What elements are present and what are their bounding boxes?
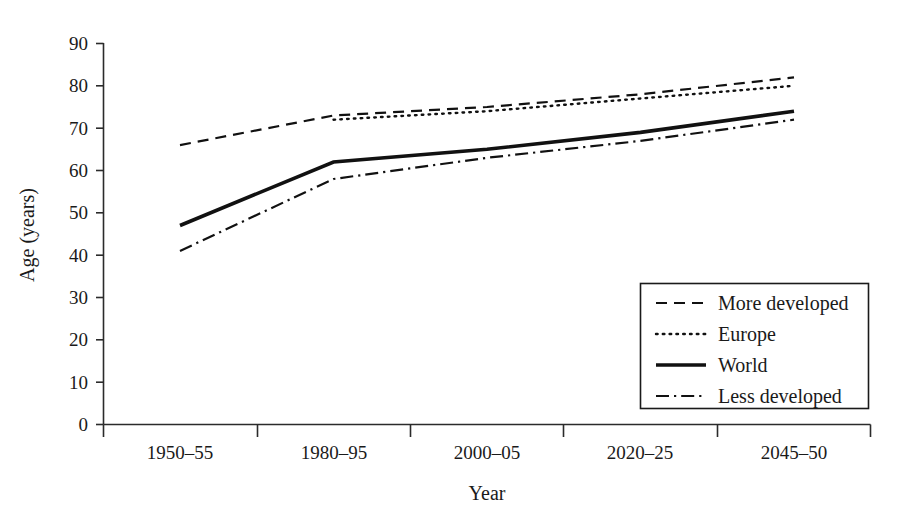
x-tick-label-2000-05: 2000–05 — [454, 442, 521, 463]
x-tick-label-2045-50: 2045–50 — [761, 442, 828, 463]
y-tick-label-90: 90 — [69, 33, 88, 54]
x-axis-ticks — [104, 425, 871, 438]
legend-label-less-developed: Less developed — [718, 385, 842, 408]
y-axis-ticks — [96, 44, 104, 425]
series-line-less-developed — [180, 120, 794, 251]
series-line-more-developed — [180, 77, 794, 145]
y-axis-title: Age (years) — [16, 188, 39, 282]
x-tick-label-1950-55: 1950–55 — [147, 442, 214, 463]
x-axis-tick-labels: 1950–55 1980–95 2000–05 2020–25 2045–50 — [147, 442, 828, 463]
y-tick-label-0: 0 — [79, 414, 89, 435]
series-group — [180, 77, 794, 251]
y-tick-label-50: 50 — [69, 202, 88, 223]
legend-label-europe: Europe — [718, 323, 776, 346]
y-tick-label-60: 60 — [69, 160, 88, 181]
y-tick-label-80: 80 — [69, 75, 88, 96]
y-tick-label-40: 40 — [69, 245, 88, 266]
x-tick-label-2020-25: 2020–25 — [607, 442, 674, 463]
chart-canvas: 0 10 20 30 40 50 60 70 80 90 1950–55 198… — [0, 0, 898, 525]
legend: More developed Europe World Less develop… — [641, 284, 869, 409]
y-tick-label-10: 10 — [69, 372, 88, 393]
legend-label-more-developed: More developed — [718, 292, 849, 315]
y-axis-tick-labels: 0 10 20 30 40 50 60 70 80 90 — [69, 33, 88, 435]
life-expectancy-line-chart: 0 10 20 30 40 50 60 70 80 90 1950–55 198… — [0, 0, 898, 525]
x-tick-label-1980-95: 1980–95 — [301, 442, 368, 463]
y-tick-label-30: 30 — [69, 287, 88, 308]
x-axis-title: Year — [469, 482, 506, 504]
legend-label-world: World — [718, 354, 768, 376]
y-tick-label-70: 70 — [69, 118, 88, 139]
series-line-europe — [334, 86, 795, 120]
y-tick-label-20: 20 — [69, 329, 88, 350]
